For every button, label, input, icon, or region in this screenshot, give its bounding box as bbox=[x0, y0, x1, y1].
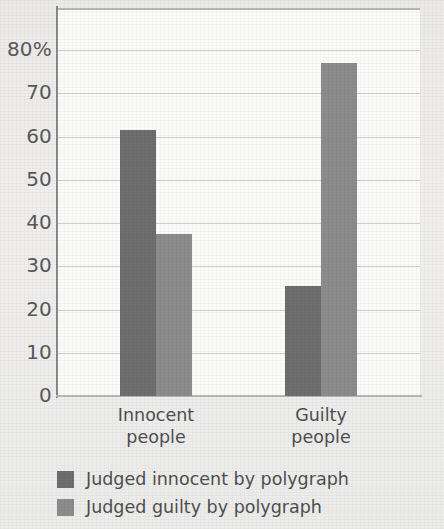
legend-label-0: Judged innocent by polygraph bbox=[86, 469, 349, 489]
legend-swatch-1 bbox=[57, 499, 74, 516]
bar-group0-series0 bbox=[120, 130, 156, 396]
grid-line-30 bbox=[57, 266, 420, 267]
category-label-1-line-0: Guilty bbox=[241, 404, 401, 426]
bar-group1-series1 bbox=[321, 63, 357, 396]
y-axis-line bbox=[56, 6, 58, 398]
y-tick-label-50: 50 bbox=[0, 169, 52, 189]
legend-item-1[interactable]: Judged guilty by polygraph bbox=[57, 494, 437, 520]
bar-group0-series1 bbox=[156, 234, 192, 396]
plot-top-border bbox=[57, 8, 420, 10]
plot-area bbox=[57, 8, 420, 396]
grid-line-10 bbox=[57, 353, 420, 354]
grid-line-70 bbox=[57, 93, 420, 94]
grid-line-80 bbox=[57, 50, 420, 51]
category-label-1: Guiltypeople bbox=[241, 404, 401, 448]
grid-line-50 bbox=[57, 180, 420, 181]
category-label-0: Innocentpeople bbox=[76, 404, 236, 448]
y-tick-label-20: 20 bbox=[0, 299, 52, 319]
grid-line-60 bbox=[57, 137, 420, 138]
category-label-1-line-1: people bbox=[241, 426, 401, 448]
x-axis-line bbox=[56, 395, 422, 397]
legend-swatch-0 bbox=[57, 471, 74, 488]
category-label-0-line-0: Innocent bbox=[76, 404, 236, 426]
y-tick-label-40: 40 bbox=[0, 212, 52, 232]
grid-line-20 bbox=[57, 310, 420, 311]
y-tick-label-60: 60 bbox=[0, 126, 52, 146]
y-tick-label-0: 0 bbox=[0, 385, 52, 405]
y-tick-label-10: 10 bbox=[0, 342, 52, 362]
legend-label-1: Judged guilty by polygraph bbox=[86, 497, 322, 517]
y-tick-label-30: 30 bbox=[0, 255, 52, 275]
y-tick-label-70: 70 bbox=[0, 82, 52, 102]
chart-figure: 80%706050403020100 InnocentpeopleGuiltyp… bbox=[0, 0, 444, 529]
y-tick-label-80: 80% bbox=[0, 39, 52, 59]
grid-line-40 bbox=[57, 223, 420, 224]
bar-group1-series0 bbox=[285, 286, 321, 396]
chart-legend: Judged innocent by polygraphJudged guilt… bbox=[57, 466, 437, 522]
category-label-0-line-1: people bbox=[76, 426, 236, 448]
legend-item-0[interactable]: Judged innocent by polygraph bbox=[57, 466, 437, 492]
